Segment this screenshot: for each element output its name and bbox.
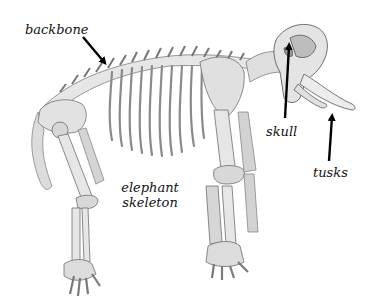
label-tusks: tusks [313, 165, 348, 180]
diagram-title: elephant skeleton [118, 180, 182, 210]
diagram-title-line-1: elephant [118, 180, 182, 195]
scapula [200, 57, 244, 118]
skeleton-illustration [0, 0, 380, 303]
label-skull: skull [266, 124, 297, 139]
diagram-title-line-2: skeleton [118, 195, 182, 210]
ribcage [110, 66, 204, 156]
backbone-arrow [83, 37, 104, 62]
tusks [294, 74, 355, 110]
elephant-skeleton-diagram: backbone skull tusks elephant skeleton [0, 0, 380, 303]
tusks-arrow [329, 117, 332, 161]
label-backbone: backbone [25, 22, 88, 37]
